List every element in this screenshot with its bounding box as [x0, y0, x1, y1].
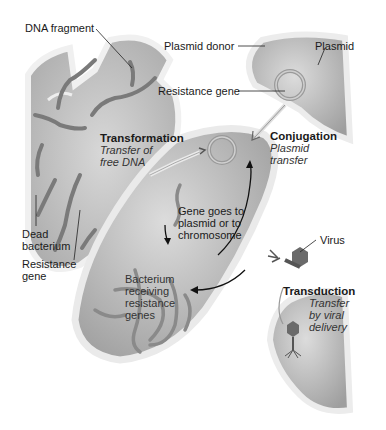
- label-plasmid-donor: Plasmid donor: [164, 40, 234, 52]
- gene-goes-3: chromosome: [178, 229, 244, 241]
- bacterium-receiving-3: resistance: [125, 297, 175, 309]
- dead-bacterium-2: bacterium: [22, 240, 70, 252]
- bacterium-receiving-4: genes: [125, 309, 175, 321]
- dead-bacterium-1: Dead: [22, 228, 70, 240]
- transformation-desc-2: free DNA: [100, 156, 184, 168]
- conjugation-title: Conjugation: [270, 130, 337, 142]
- label-resistance-gene-left: Resistance gene: [22, 258, 76, 282]
- label-conjugation: Conjugation Plasmid transfer: [270, 130, 337, 166]
- label-transformation: Transformation Transfer of free DNA: [100, 132, 184, 168]
- label-bacterium-receiving: Bacterium receiving resistance genes: [125, 273, 175, 321]
- transduction-desc-2: by viral: [283, 309, 355, 321]
- label-virus: Virus: [320, 234, 345, 246]
- label-plasmid: Plasmid: [315, 40, 354, 52]
- label-resistance-gene-top: Resistance gene: [158, 85, 240, 97]
- gene-goes-2: plasmid or to: [178, 217, 244, 229]
- label-dead-bacterium: Dead bacterium: [22, 228, 70, 252]
- transduction-title: Transduction: [283, 285, 355, 297]
- gene-transfer-diagram: DNA fragment Plasmid donor Plasmid Resis…: [0, 0, 386, 430]
- bacterium-receiving-2: receiving: [125, 285, 175, 297]
- gene-goes-1: Gene goes to: [178, 205, 244, 217]
- resistance-gene-left-1: Resistance: [22, 258, 76, 270]
- label-gene-goes: Gene goes to plasmid or to chromosome: [178, 205, 244, 241]
- transduction-desc-3: delivery: [283, 321, 355, 333]
- transformation-title: Transformation: [100, 132, 184, 144]
- label-transduction: Transduction Transfer by viral delivery: [283, 285, 355, 333]
- resistance-gene-left-2: gene: [22, 270, 76, 282]
- conjugation-desc-1: Plasmid: [270, 142, 337, 154]
- transformation-desc-1: Transfer of: [100, 144, 184, 156]
- bacterium-receiving-1: Bacterium: [125, 273, 175, 285]
- transduction-desc-1: Transfer: [283, 297, 355, 309]
- conjugation-desc-2: transfer: [270, 154, 337, 166]
- label-dna-fragment: DNA fragment: [25, 22, 94, 34]
